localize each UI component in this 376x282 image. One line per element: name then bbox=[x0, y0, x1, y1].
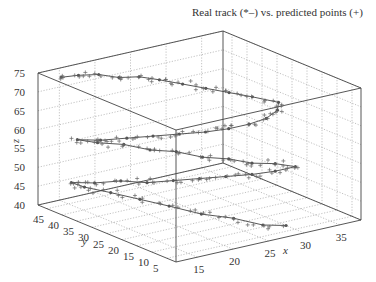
x-axis-label: x bbox=[282, 244, 288, 256]
svg-text:15: 15 bbox=[123, 250, 135, 262]
svg-text:70: 70 bbox=[14, 86, 26, 98]
svg-text:65: 65 bbox=[14, 105, 26, 117]
y-axis-label: y bbox=[81, 235, 87, 247]
svg-text:60: 60 bbox=[14, 124, 26, 136]
svg-text:40: 40 bbox=[48, 219, 60, 231]
svg-text:35: 35 bbox=[336, 231, 348, 243]
svg-text:55: 55 bbox=[14, 142, 26, 154]
svg-text:20: 20 bbox=[108, 244, 120, 256]
3d-plot: 4045505560657075510152025303540451520253… bbox=[0, 0, 376, 282]
grid-lines bbox=[38, 31, 361, 258]
svg-text:25: 25 bbox=[265, 247, 277, 259]
z-axis-label: z bbox=[10, 139, 21, 144]
svg-text:40: 40 bbox=[14, 199, 26, 211]
svg-text:35: 35 bbox=[63, 225, 75, 237]
svg-text:20: 20 bbox=[229, 255, 241, 267]
tick-labels: 4045505560657075510152025303540451520253… bbox=[14, 67, 347, 275]
svg-text:50: 50 bbox=[14, 161, 26, 173]
svg-text:75: 75 bbox=[14, 67, 26, 79]
predicted-points-series bbox=[59, 70, 300, 230]
svg-text:5: 5 bbox=[153, 262, 159, 274]
svg-text:25: 25 bbox=[93, 238, 105, 250]
svg-text:10: 10 bbox=[138, 256, 150, 268]
svg-text:30: 30 bbox=[300, 239, 312, 251]
svg-text:45: 45 bbox=[33, 213, 45, 225]
axes-box bbox=[38, 31, 361, 262]
svg-text:15: 15 bbox=[193, 263, 205, 275]
svg-text:45: 45 bbox=[14, 180, 26, 192]
real-track-series bbox=[60, 73, 297, 227]
